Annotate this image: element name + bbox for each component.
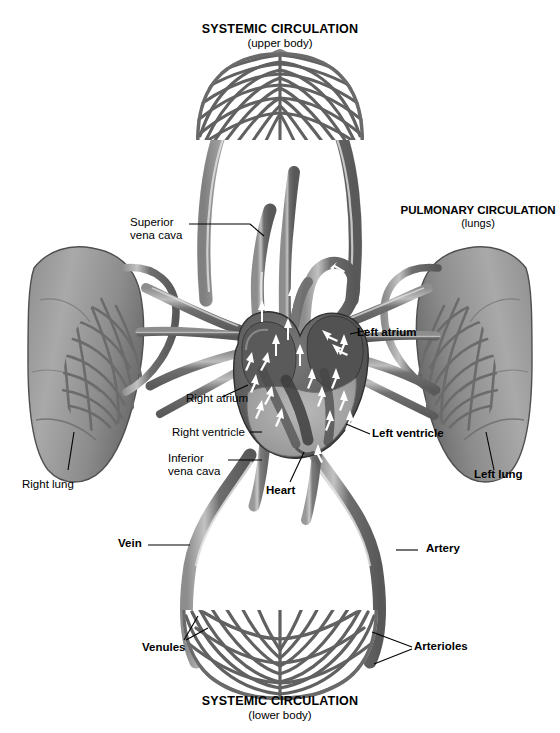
upper-capillary-bed (196, 52, 364, 148)
label-right-atrium: Right atrium (186, 392, 248, 405)
label-inferior-vena-cava-line1: Inferior (168, 452, 204, 464)
label-arterioles: Arterioles (414, 640, 468, 653)
left-lung (384, 247, 532, 482)
label-heart: Heart (266, 484, 295, 497)
caption-pulmonary: PULMONARY CIRCULATION (lungs) (396, 204, 560, 229)
label-superior-vena-cava-line2: vena cava (130, 229, 182, 241)
label-right-lung: Right lung (22, 478, 74, 491)
label-artery: Artery (426, 542, 460, 555)
label-left-ventricle: Left ventricle (372, 427, 444, 440)
caption-systemic-upper-subtitle: (upper body) (0, 37, 560, 49)
label-left-lung: Left lung (474, 468, 523, 481)
caption-systemic-lower-subtitle: (lower body) (0, 709, 560, 721)
label-superior-vena-cava-line1: Superior (130, 216, 173, 228)
caption-systemic-upper-title: SYSTEMIC CIRCULATION (0, 22, 560, 36)
label-inferior-vena-cava-line2: vena cava (168, 465, 220, 477)
label-right-ventricle: Right ventricle (172, 426, 245, 439)
caption-systemic-upper: SYSTEMIC CIRCULATION (upper body) (0, 22, 560, 49)
caption-systemic-lower: SYSTEMIC CIRCULATION (lower body) (0, 694, 560, 721)
caption-pulmonary-subtitle: (lungs) (396, 217, 560, 229)
label-superior-vena-cava: Superior vena cava (130, 216, 182, 242)
label-venules: Venules (142, 641, 185, 654)
label-vein: Vein (118, 537, 142, 550)
right-lung (28, 247, 176, 482)
circulatory-system-diagram: SYSTEMIC CIRCULATION (upper body) SYSTEM… (0, 0, 560, 733)
caption-systemic-lower-title: SYSTEMIC CIRCULATION (0, 694, 560, 708)
caption-pulmonary-title: PULMONARY CIRCULATION (396, 204, 560, 216)
label-inferior-vena-cava: Inferior vena cava (168, 452, 220, 478)
diagram-illustration (0, 0, 560, 733)
label-left-atrium: Left atrium (357, 326, 416, 339)
